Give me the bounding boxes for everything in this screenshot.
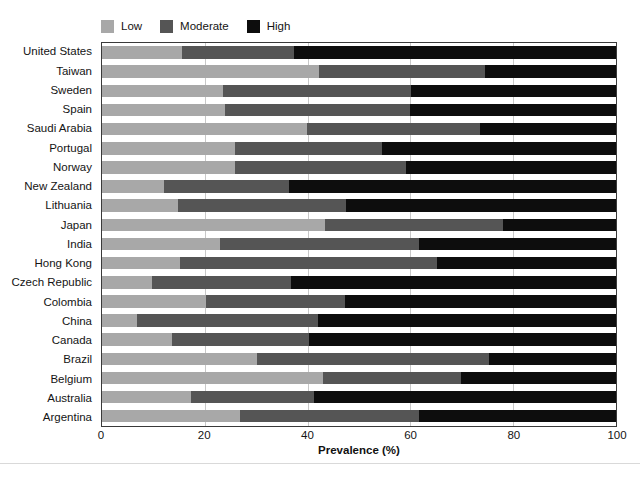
bar-segment-high[interactable] xyxy=(318,314,616,327)
bar-segment-low[interactable] xyxy=(102,333,172,346)
bar-segment-low[interactable] xyxy=(102,295,206,308)
y-axis-label: Canada xyxy=(0,334,96,347)
bar-segment-moderate[interactable] xyxy=(307,123,480,136)
y-axis-label: Norway xyxy=(0,161,96,174)
bar-segment-moderate[interactable] xyxy=(325,219,503,232)
bar-segment-low[interactable] xyxy=(102,391,191,404)
bar-segment-high[interactable] xyxy=(503,219,616,232)
bar-row[interactable] xyxy=(102,123,616,136)
bar-segment-low[interactable] xyxy=(102,372,323,385)
bar-segment-low[interactable] xyxy=(102,353,257,366)
bar-segment-low[interactable] xyxy=(102,180,164,193)
bar-segment-high[interactable] xyxy=(346,199,616,212)
bar-segment-moderate[interactable] xyxy=(206,295,345,308)
bar-row[interactable] xyxy=(102,314,616,327)
bar-segment-low[interactable] xyxy=(102,314,137,327)
bar-row[interactable] xyxy=(102,410,616,423)
x-axis-tick: 0 xyxy=(98,429,104,441)
bar-segment-moderate[interactable] xyxy=(182,46,294,59)
bar-segment-high[interactable] xyxy=(291,276,616,289)
bar-row[interactable] xyxy=(102,333,616,346)
bar-segment-moderate[interactable] xyxy=(235,142,383,155)
y-axis-label: Belgium xyxy=(0,373,96,386)
bar-segment-moderate[interactable] xyxy=(323,372,461,385)
legend-swatch-moderate xyxy=(160,20,173,33)
bar-segment-high[interactable] xyxy=(289,180,616,193)
x-axis-tick-labels: 020406080100 xyxy=(101,429,617,445)
bar-segment-high[interactable] xyxy=(406,161,616,174)
bar-segment-high[interactable] xyxy=(314,391,616,404)
bar-segment-moderate[interactable] xyxy=(235,161,407,174)
footer-divider xyxy=(0,463,640,464)
bar-row[interactable] xyxy=(102,180,616,193)
bar-segment-low[interactable] xyxy=(102,199,178,212)
bar-row[interactable] xyxy=(102,372,616,385)
bar-segment-high[interactable] xyxy=(309,333,616,346)
bar-segment-high[interactable] xyxy=(419,410,616,423)
legend-item-moderate[interactable]: Moderate xyxy=(160,20,229,33)
bar-row[interactable] xyxy=(102,142,616,155)
y-axis-label: China xyxy=(0,315,96,328)
bar-segment-low[interactable] xyxy=(102,161,235,174)
bar-segment-moderate[interactable] xyxy=(172,333,309,346)
bar-row[interactable] xyxy=(102,65,616,78)
bar-segment-low[interactable] xyxy=(102,65,319,78)
bar-segment-high[interactable] xyxy=(437,257,616,270)
bar-row[interactable] xyxy=(102,85,616,98)
bar-row[interactable] xyxy=(102,219,616,232)
bar-segment-moderate[interactable] xyxy=(257,353,489,366)
legend-label: Low xyxy=(121,20,142,33)
bar-row[interactable] xyxy=(102,104,616,117)
bar-segment-high[interactable] xyxy=(461,372,616,385)
bar-row[interactable] xyxy=(102,276,616,289)
bar-segment-moderate[interactable] xyxy=(223,85,411,98)
y-axis-label: Spain xyxy=(0,103,96,116)
legend-item-low[interactable]: Low xyxy=(101,20,142,33)
bar-segment-high[interactable] xyxy=(294,46,616,59)
bar-row[interactable] xyxy=(102,353,616,366)
bar-row[interactable] xyxy=(102,161,616,174)
bar-segment-low[interactable] xyxy=(102,410,240,423)
bar-segment-moderate[interactable] xyxy=(178,199,347,212)
bar-row[interactable] xyxy=(102,199,616,212)
bar-row[interactable] xyxy=(102,295,616,308)
bar-row[interactable] xyxy=(102,391,616,404)
bar-row[interactable] xyxy=(102,46,616,59)
y-axis-category-labels: United StatesTaiwanSwedenSpainSaudi Arab… xyxy=(0,42,96,427)
y-axis-label: Czech Republic xyxy=(0,276,96,289)
bar-segment-high[interactable] xyxy=(419,238,616,251)
bar-segment-low[interactable] xyxy=(102,104,225,117)
bar-segment-low[interactable] xyxy=(102,123,307,136)
bar-segment-low[interactable] xyxy=(102,276,152,289)
bar-segment-moderate[interactable] xyxy=(137,314,318,327)
y-axis-label: Australia xyxy=(0,392,96,405)
bar-segment-low[interactable] xyxy=(102,257,180,270)
bar-row[interactable] xyxy=(102,238,616,251)
bar-segment-moderate[interactable] xyxy=(164,180,289,193)
bar-segment-high[interactable] xyxy=(345,295,616,308)
bar-segment-low[interactable] xyxy=(102,238,220,251)
bar-segment-low[interactable] xyxy=(102,142,235,155)
y-axis-label: Taiwan xyxy=(0,65,96,78)
bar-segment-high[interactable] xyxy=(382,142,616,155)
bar-segment-low[interactable] xyxy=(102,85,223,98)
bar-segment-moderate[interactable] xyxy=(191,391,313,404)
plot-area xyxy=(101,42,617,427)
bar-segment-high[interactable] xyxy=(489,353,616,366)
bar-segment-low[interactable] xyxy=(102,46,182,59)
bar-row[interactable] xyxy=(102,257,616,270)
bar-segment-moderate[interactable] xyxy=(180,257,437,270)
bar-segment-moderate[interactable] xyxy=(240,410,419,423)
bar-segment-high[interactable] xyxy=(410,104,616,117)
bar-segment-moderate[interactable] xyxy=(319,65,485,78)
bar-segment-high[interactable] xyxy=(411,85,616,98)
bar-segment-low[interactable] xyxy=(102,219,325,232)
legend-swatch-high xyxy=(247,20,260,33)
legend-item-high[interactable]: High xyxy=(247,20,291,33)
bar-segment-moderate[interactable] xyxy=(220,238,419,251)
bar-segment-high[interactable] xyxy=(485,65,616,78)
bar-segment-moderate[interactable] xyxy=(152,276,290,289)
bar-segment-high[interactable] xyxy=(480,123,616,136)
bar-segment-moderate[interactable] xyxy=(225,104,411,117)
x-axis-tick: 20 xyxy=(198,429,211,441)
